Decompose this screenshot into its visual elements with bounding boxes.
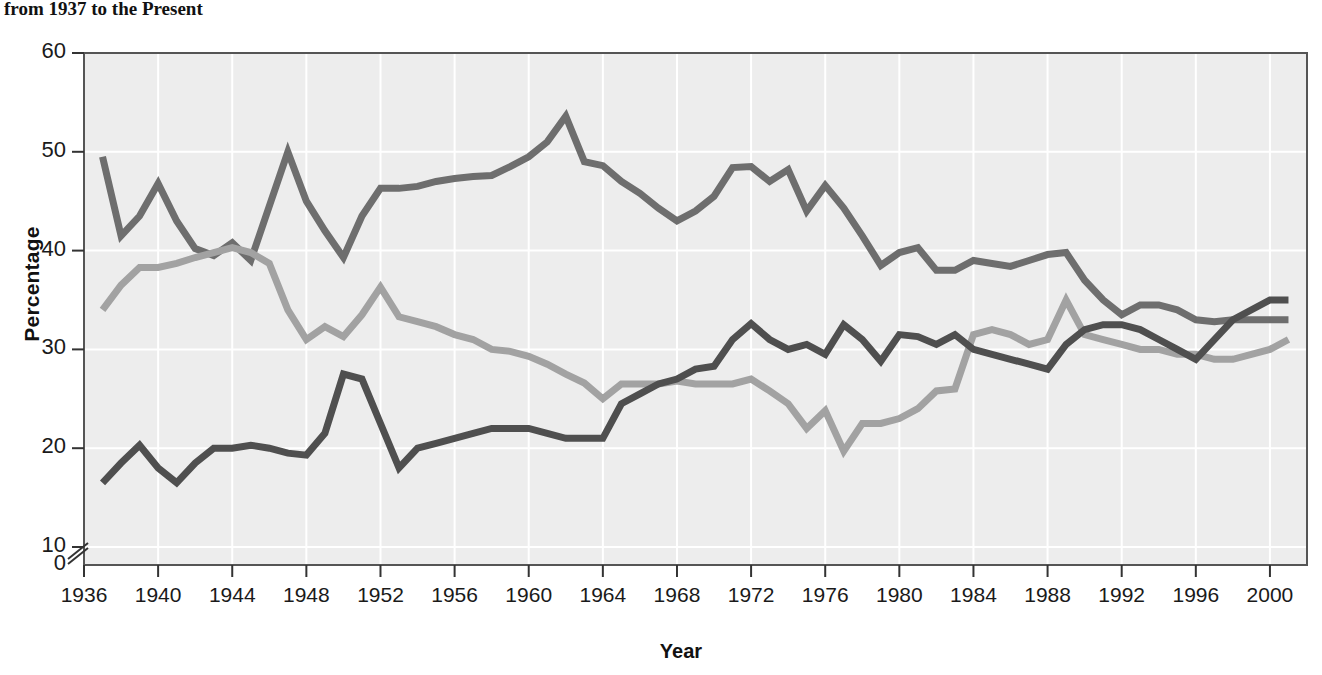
plot-svg (0, 0, 1322, 675)
plot-background (84, 53, 1307, 565)
chart-area: Percentage Year 0102030405060 1936194019… (0, 0, 1322, 675)
